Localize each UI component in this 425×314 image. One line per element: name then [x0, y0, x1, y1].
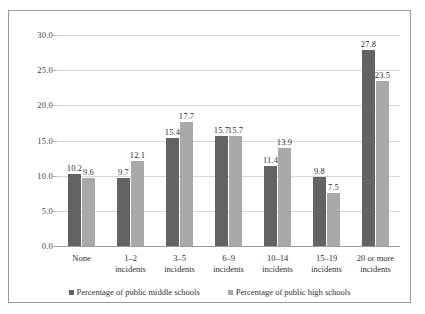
x-axis-category-line1: 6–9	[222, 253, 235, 263]
bar-value-label: 9.6	[83, 167, 94, 177]
bar-value-label: 15.7	[214, 125, 229, 135]
bar[interactable]: 10.2	[68, 174, 81, 246]
x-axis-category-line2: incidents	[253, 264, 302, 275]
legend-label: Percentage of public high schools	[236, 287, 351, 297]
bar-value-label: 9.7	[118, 167, 129, 177]
bar-group: 9.87.5	[302, 0, 351, 246]
x-axis-category: 3–5incidents	[155, 249, 204, 285]
bar-fill	[278, 148, 291, 246]
x-axis-category: 10–14incidents	[253, 249, 302, 285]
legend-swatch-icon	[69, 290, 74, 295]
y-axis-tick-0: 0.0	[17, 241, 53, 251]
plot-area: 10.29.69.712.115.417.715.715.711.413.99.…	[57, 35, 400, 246]
y-axis-tick-2: 10.0	[17, 171, 53, 181]
x-axis-category-line1: 3–5	[173, 253, 186, 263]
bar-fill	[117, 178, 130, 246]
bar-fill	[264, 166, 277, 246]
y-axis-tick-4: 20.0	[17, 100, 53, 110]
legend-swatch-icon	[228, 290, 233, 295]
x-axis-category-line1: 10–14	[267, 253, 288, 263]
y-tick-mark-0	[53, 246, 57, 247]
chart-legend: Percentage of public middle schoolsPerce…	[9, 287, 410, 297]
bar-groups: 10.29.69.712.115.417.715.715.711.413.99.…	[57, 0, 400, 246]
bar[interactable]: 9.7	[117, 178, 130, 246]
bar-value-label: 15.7	[228, 125, 243, 135]
legend-item[interactable]: Percentage of public middle schools	[69, 287, 200, 297]
bar-fill	[215, 136, 228, 246]
bar-group: 15.715.7	[204, 0, 253, 246]
bar[interactable]: 15.7	[229, 136, 242, 246]
x-axis-category-line2: incidents	[351, 264, 400, 275]
bar[interactable]: 9.8	[313, 177, 326, 246]
x-axis-category-line2: incidents	[155, 264, 204, 275]
bar[interactable]: 27.8	[362, 50, 375, 246]
bar-fill	[327, 193, 340, 246]
legend-label: Percentage of public middle schools	[77, 287, 200, 297]
axis-baseline	[57, 246, 400, 247]
bar-group: 9.712.1	[106, 0, 155, 246]
bar-value-label: 10.2	[67, 163, 82, 173]
bar[interactable]: 17.7	[180, 122, 193, 246]
bar-fill	[131, 161, 144, 246]
bar-value-label: 23.5	[375, 70, 390, 80]
plot-wrapper: 0.05.010.015.020.025.030.0 10.29.69.712.…	[9, 11, 410, 302]
y-axis-tick-3: 15.0	[17, 136, 53, 146]
y-axis-tick-6: 30.0	[17, 30, 53, 40]
bar[interactable]: 13.9	[278, 148, 291, 246]
x-axis-category-line1: 20 or more	[357, 253, 394, 263]
x-axis-category-line2: incidents	[302, 264, 351, 275]
legend-item[interactable]: Percentage of public high schools	[228, 287, 351, 297]
x-axis-category: 15–19incidents	[302, 249, 351, 285]
bar[interactable]: 23.5	[376, 81, 389, 246]
x-axis-category: 6–9incidents	[204, 249, 253, 285]
bar-fill	[313, 177, 326, 246]
x-axis-category-line1: 1–2	[124, 253, 137, 263]
bar-group: 10.29.6	[57, 0, 106, 246]
bar-group: 15.417.7	[155, 0, 204, 246]
bar-value-label: 11.4	[263, 155, 278, 165]
y-axis-tick-5: 25.0	[17, 65, 53, 75]
bar[interactable]: 9.6	[82, 178, 95, 246]
bar-value-label: 12.1	[130, 150, 145, 160]
bar-value-label: 9.8	[314, 166, 325, 176]
bar-fill	[68, 174, 81, 246]
bar-fill	[166, 138, 179, 246]
x-axis-category: 1–2incidents	[106, 249, 155, 285]
x-axis-category: 20 or moreincidents	[351, 249, 400, 285]
x-axis-category-labels: None1–2incidents3–5incidents6–9incidents…	[57, 249, 400, 285]
chart-figure: 0.05.010.015.020.025.030.0 10.29.69.712.…	[8, 10, 411, 303]
bar-value-label: 13.9	[277, 137, 292, 147]
bar-fill	[229, 136, 242, 246]
bar-value-label: 17.7	[179, 111, 194, 121]
bar[interactable]: 15.7	[215, 136, 228, 246]
y-axis-tick-1: 5.0	[17, 206, 53, 216]
bar[interactable]: 15.4	[166, 138, 179, 246]
x-axis-category: None	[57, 249, 106, 285]
bar-fill	[180, 122, 193, 246]
bar-group: 11.413.9	[253, 0, 302, 246]
bar[interactable]: 7.5	[327, 193, 340, 246]
x-axis-category-line1: 15–19	[316, 253, 337, 263]
bar-fill	[82, 178, 95, 246]
x-axis-category-line2: incidents	[204, 264, 253, 275]
bar-fill	[362, 50, 375, 246]
bar-group: 27.823.5	[351, 0, 400, 246]
bar-value-label: 15.4	[165, 127, 180, 137]
bar[interactable]: 12.1	[131, 161, 144, 246]
x-axis-category-line2: incidents	[106, 264, 155, 275]
bar-fill	[376, 81, 389, 246]
x-axis-category-line1: None	[72, 253, 90, 263]
bar-value-label: 27.8	[361, 39, 376, 49]
bar-value-label: 7.5	[328, 182, 339, 192]
bar[interactable]: 11.4	[264, 166, 277, 246]
